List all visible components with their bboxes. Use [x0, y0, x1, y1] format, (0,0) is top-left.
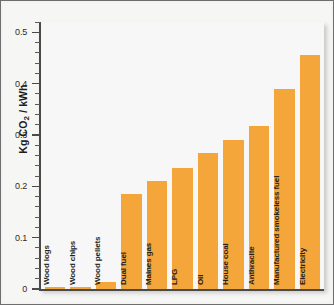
bar-series: Wood logsWood chipsWood pelletsDual fuel…: [41, 22, 324, 289]
y-tick-minor: [35, 73, 40, 74]
y-tick-major: [32, 186, 40, 188]
bar-slot: Maines gas: [144, 22, 170, 289]
y-tick-minor: [35, 63, 40, 64]
y-tick-minor: [35, 258, 40, 259]
y-tick-minor: [35, 93, 40, 94]
y-tick-label: 0: [0, 284, 27, 294]
y-tick-minor: [35, 217, 40, 218]
y-tick-minor: [35, 196, 40, 197]
y-tick-minor: [35, 206, 40, 207]
bar-slot: Anthracite: [246, 22, 272, 289]
y-tick-major: [32, 83, 40, 85]
y-tick-minor: [35, 278, 40, 279]
bar: [45, 287, 65, 289]
y-tick-major: [32, 237, 40, 239]
x-axis-line: [39, 289, 324, 291]
y-axis-title: Kg CO2 / kWh: [17, 59, 29, 179]
y-tick-minor: [35, 124, 40, 125]
y-tick-label: 0.2: [0, 181, 27, 191]
bar-slot: Manufactured smokeless fuel: [272, 22, 298, 289]
y-tick-major: [32, 134, 40, 136]
y-tick-label: 0.1: [0, 233, 27, 243]
bar-slot: Dual fuel: [119, 22, 145, 289]
bar-category-label: Manufactured smokeless fuel: [272, 176, 281, 285]
y-tick-minor: [35, 104, 40, 105]
bar: [198, 153, 218, 289]
y-tick-minor: [35, 155, 40, 156]
bar-slot: Wood logs: [42, 22, 68, 289]
bar-category-label: Wood chips: [68, 241, 77, 285]
y-tick-minor: [35, 22, 40, 23]
bar-slot: Wood chips: [68, 22, 94, 289]
bar: [70, 287, 90, 289]
y-tick-minor: [35, 42, 40, 43]
y-tick-minor: [35, 247, 40, 248]
bar-slot: House coal: [221, 22, 247, 289]
y-tick-label: 0.5: [0, 27, 27, 37]
bar-category-label: Wood logs: [42, 245, 51, 285]
bar-category-label: Oil: [196, 275, 205, 285]
y-tick-minor: [35, 176, 40, 177]
bar-slot: Electricity: [297, 22, 323, 289]
y-tick-minor: [35, 145, 40, 146]
y-tick-major: [32, 288, 40, 290]
bar-category-label: LPG: [170, 269, 179, 285]
y-tick-major: [32, 32, 40, 34]
y-tick-minor: [35, 268, 40, 269]
bar-category-label: Maines gas: [144, 243, 153, 285]
y-tick-minor: [35, 165, 40, 166]
bar-category-label: Electricity: [298, 248, 307, 285]
bar-category-label: House coal: [221, 243, 230, 285]
bar-category-label: Dual fuel: [119, 252, 128, 285]
bar-slot: Oil: [195, 22, 221, 289]
y-tick-minor: [35, 114, 40, 115]
bar-category-label: Anthracite: [247, 246, 256, 285]
bar-slot: LPG: [170, 22, 196, 289]
y-tick-minor: [35, 227, 40, 228]
bar-slot: Wood pellets: [93, 22, 119, 289]
bar-category-label: Wood pellets: [93, 237, 102, 285]
figure-container: 00.10.20.30.40.5 Kg CO2 / kWh Wood logsW…: [0, 0, 334, 305]
y-tick-minor: [35, 52, 40, 53]
